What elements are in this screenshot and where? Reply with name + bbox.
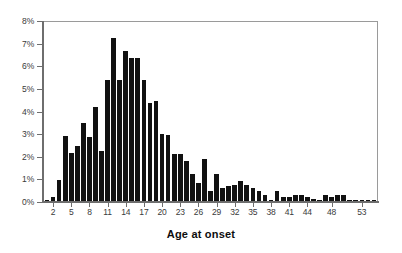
x-tick-label: 17 (139, 208, 148, 217)
x-tick-label: 2 (51, 208, 56, 217)
bar (214, 174, 219, 201)
y-tick-label: 7% (22, 39, 34, 48)
bar (305, 197, 310, 201)
bar (372, 200, 377, 201)
x-axis: 2581114172023262932353841444853 (0, 203, 402, 223)
bar (129, 58, 134, 201)
y-tick-label: 5% (22, 85, 34, 94)
y-tick-mark (37, 89, 42, 90)
bar (111, 38, 116, 201)
x-tick-label: 48 (327, 208, 336, 217)
bar (244, 185, 249, 201)
plot-area (44, 22, 377, 201)
x-tick-label: 5 (69, 208, 74, 217)
bar (208, 191, 213, 201)
bar (293, 195, 298, 201)
y-tick-mark (37, 179, 42, 180)
bar (281, 197, 286, 201)
bar (299, 195, 304, 201)
bar (135, 58, 140, 201)
x-tick-label: 8 (87, 208, 92, 217)
bar (172, 154, 177, 201)
x-axis-title: Age at onset (0, 228, 402, 240)
bar (220, 188, 225, 201)
x-tick-label: 35 (248, 208, 257, 217)
bar (317, 200, 322, 201)
histogram-chart: 0%1%2%3%4%5%6%7%8% 258111417202326293235… (0, 0, 402, 253)
bar (142, 80, 147, 201)
x-tick-label: 32 (230, 208, 239, 217)
bar (251, 188, 256, 201)
bar (99, 151, 104, 201)
bar (51, 197, 56, 201)
bar (63, 136, 68, 201)
bar (123, 51, 128, 201)
y-tick-label: 4% (22, 107, 34, 116)
y-tick-label: 2% (22, 153, 34, 162)
x-tick-label: 23 (176, 208, 185, 217)
x-tick-label: 11 (103, 208, 111, 217)
y-tick-mark (37, 21, 42, 22)
y-tick-label: 3% (22, 130, 34, 139)
bar (190, 174, 195, 201)
bar (353, 200, 358, 201)
bar (166, 135, 171, 201)
bar (366, 200, 371, 201)
bar (232, 185, 237, 201)
bar (341, 195, 346, 201)
bar (69, 153, 74, 201)
bar (269, 200, 274, 201)
bar (311, 199, 316, 201)
bar (81, 123, 86, 201)
y-tick-label: 1% (22, 175, 34, 184)
x-tick-label: 14 (121, 208, 130, 217)
y-tick-mark (37, 202, 42, 203)
bar (117, 80, 122, 201)
y-tick-mark (37, 66, 42, 67)
bar (360, 200, 365, 201)
bar (57, 180, 62, 201)
bar (287, 197, 292, 201)
bar (335, 195, 340, 201)
x-tick-label: 26 (194, 208, 203, 217)
x-tick-label: 44 (303, 208, 312, 217)
bar (184, 161, 189, 201)
bar (178, 154, 183, 201)
y-tick-mark (37, 157, 42, 158)
bar (202, 159, 207, 202)
bar (329, 197, 334, 201)
bar (275, 191, 280, 201)
bar (93, 107, 98, 201)
bar (196, 183, 201, 201)
y-tick-mark (37, 112, 42, 113)
x-tick-label: 29 (212, 208, 221, 217)
bar (75, 146, 80, 201)
bar (257, 191, 262, 201)
y-tick-label: 6% (22, 62, 34, 71)
x-tick-label: 38 (267, 208, 276, 217)
bar (45, 200, 50, 201)
bar (148, 103, 153, 201)
bar (323, 195, 328, 201)
y-tick-mark (37, 44, 42, 45)
x-tick-label: 53 (357, 208, 366, 217)
bar (263, 195, 268, 201)
x-tick-label: 41 (285, 208, 294, 217)
bar (160, 134, 165, 201)
y-tick-mark (37, 134, 42, 135)
x-tick-label: 20 (158, 208, 167, 217)
y-tick-label: 8% (22, 17, 34, 26)
bar (154, 101, 159, 201)
bar (226, 186, 231, 201)
bar (105, 80, 110, 201)
bar (347, 200, 352, 201)
bar (87, 137, 92, 201)
bar (238, 181, 243, 201)
